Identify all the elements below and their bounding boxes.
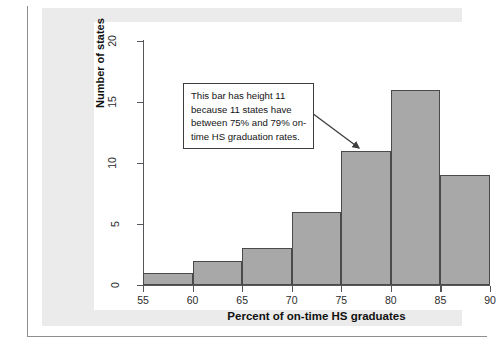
y-axis-tick-label: 15 bbox=[106, 96, 118, 108]
histogram-bar bbox=[341, 151, 391, 285]
y-axis-tick bbox=[137, 102, 143, 103]
x-axis-tick bbox=[242, 286, 243, 292]
x-axis-tick bbox=[292, 286, 293, 292]
histogram-bar bbox=[440, 175, 490, 285]
y-axis-tick bbox=[137, 224, 143, 225]
x-axis-tick bbox=[391, 286, 392, 292]
y-axis-tick-label: 10 bbox=[106, 157, 118, 169]
x-axis-tick bbox=[341, 286, 342, 292]
histogram-bar bbox=[391, 90, 441, 285]
y-axis-tick-label: 5 bbox=[109, 221, 121, 227]
x-axis-tick bbox=[490, 286, 491, 292]
x-axis-tick-label: 80 bbox=[376, 294, 406, 306]
x-axis-title: Percent of on-time HS graduates bbox=[143, 310, 490, 322]
page-rule-left bbox=[27, 6, 28, 336]
histogram-bar bbox=[242, 248, 292, 285]
annotation-callout: This bar has height 11 because 11 states… bbox=[183, 83, 314, 149]
x-axis-tick-label: 90 bbox=[475, 294, 501, 306]
histogram-bar bbox=[193, 261, 243, 285]
annotation-arrow-icon bbox=[307, 106, 377, 161]
histogram-bar bbox=[292, 212, 342, 285]
x-axis-tick-label: 60 bbox=[178, 294, 208, 306]
y-axis-line bbox=[143, 40, 144, 286]
x-axis-tick bbox=[440, 286, 441, 292]
x-axis-tick-label: 70 bbox=[277, 294, 307, 306]
x-axis-tick-label: 55 bbox=[128, 294, 158, 306]
histogram-bar bbox=[143, 273, 193, 285]
y-axis-tick-label: 0 bbox=[109, 282, 121, 288]
x-axis-line bbox=[143, 285, 490, 286]
x-axis-tick bbox=[193, 286, 194, 292]
y-axis-tick-label: 20 bbox=[106, 35, 118, 47]
x-axis-tick bbox=[143, 286, 144, 292]
x-axis-tick-label: 75 bbox=[326, 294, 356, 306]
x-axis-tick-label: 85 bbox=[425, 294, 455, 306]
y-axis-tick bbox=[137, 41, 143, 42]
page-rule-bottom bbox=[27, 336, 487, 337]
y-axis-tick bbox=[137, 163, 143, 164]
y-axis-title: Number of states bbox=[94, 94, 106, 108]
figure-panel: Number of states Percent of on-time HS g… bbox=[42, 8, 462, 326]
x-axis-tick-label: 65 bbox=[227, 294, 257, 306]
